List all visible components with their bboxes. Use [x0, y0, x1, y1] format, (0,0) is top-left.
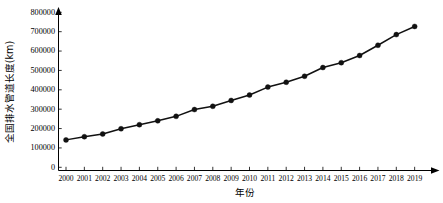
- y-axis-tick-label: 800000: [30, 8, 55, 17]
- y-axis-arrow-head: [55, 7, 62, 15]
- data-point: [302, 74, 307, 79]
- x-axis-tick-label: 2015: [334, 174, 349, 183]
- data-point: [192, 107, 197, 112]
- x-axis-tick-label: 2014: [315, 174, 330, 183]
- data-point: [210, 104, 215, 109]
- data-point: [100, 131, 105, 136]
- y-axis-tick-label: 200000: [30, 124, 55, 133]
- x-axis-tick-label: 2003: [113, 174, 128, 183]
- x-axis-tick-label: 2006: [169, 174, 184, 183]
- data-point: [357, 53, 362, 58]
- x-axis-arrow-head: [431, 167, 440, 174]
- data-point: [265, 85, 270, 90]
- data-point: [155, 118, 160, 123]
- y-axis-title: 全国排水管道长度(km): [4, 41, 15, 143]
- x-axis-tick-label: 2007: [187, 174, 202, 183]
- x-axis-tick-label: 2012: [279, 174, 294, 183]
- x-axis-title: 年份: [235, 187, 255, 198]
- x-axis-tick-label: 2005: [150, 174, 165, 183]
- y-axis-tick-label: 0: [51, 163, 55, 172]
- data-point: [247, 93, 252, 98]
- data-point: [375, 43, 380, 48]
- y-axis-tick-label: 300000: [30, 105, 55, 114]
- x-axis-tick-group: 2000200120022003200420052006200720082009…: [58, 167, 422, 183]
- x-axis-tick-label: 2013: [297, 174, 312, 183]
- data-point: [320, 65, 325, 70]
- y-axis-tick-label: 700000: [30, 27, 55, 36]
- y-axis-tick-label: 500000: [30, 66, 55, 75]
- x-axis-tick-label: 2000: [58, 174, 73, 183]
- line-chart: 0100000200000300000400000500000600000700…: [0, 0, 443, 203]
- data-point: [284, 80, 289, 85]
- y-axis-tick-label: 600000: [30, 46, 55, 55]
- x-axis-tick-label: 2004: [132, 174, 147, 183]
- x-axis-tick-label: 2009: [224, 174, 239, 183]
- chart-container: 0100000200000300000400000500000600000700…: [0, 0, 443, 203]
- data-point: [174, 114, 179, 119]
- x-axis-tick-label: 2019: [407, 174, 422, 183]
- data-point-group: [64, 24, 418, 142]
- data-point: [119, 126, 124, 131]
- data-line-national-drainage-pipe-length: [66, 26, 415, 139]
- y-axis-tick-label: 400000: [30, 85, 55, 94]
- x-axis-tick-label: 2018: [389, 174, 404, 183]
- x-axis-tick-label: 2002: [95, 174, 110, 183]
- data-point: [394, 32, 399, 37]
- data-point: [339, 60, 344, 65]
- x-axis-tick-label: 2011: [260, 174, 275, 183]
- data-point: [64, 137, 69, 142]
- x-axis-tick-label: 2016: [352, 174, 367, 183]
- data-point: [137, 122, 142, 127]
- y-axis-tick-group: 0100000200000300000400000500000600000700…: [30, 8, 61, 172]
- x-axis-tick-label: 2010: [242, 174, 257, 183]
- data-point: [82, 134, 87, 139]
- y-axis-tick-label: 100000: [30, 143, 55, 152]
- x-axis-tick-label: 2001: [77, 174, 92, 183]
- x-axis-tick-label: 2008: [205, 174, 220, 183]
- data-point: [229, 98, 234, 103]
- data-point: [412, 24, 417, 29]
- x-axis-tick-label: 2017: [370, 174, 385, 183]
